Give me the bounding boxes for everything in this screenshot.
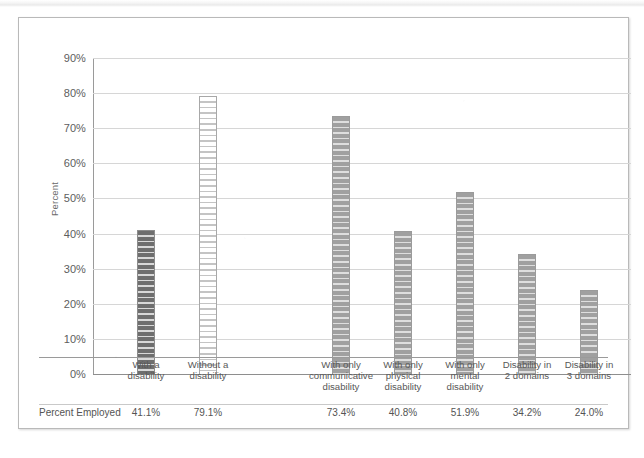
bar-6 [518,254,536,374]
plot-area: 0%10%20%30%40%50%60%70%80%90% [93,58,633,374]
chart-figure-frame: Percent 0%10%20%30%40%50%60%70%80%90% Wi… [18,17,629,429]
y-axis-tick-label: 80% [64,87,86,99]
gridline [93,58,631,59]
gridline [93,163,631,164]
category-label-line: disability [169,370,247,381]
category-label-line: disability [426,381,504,392]
y-axis-tick-label: 60% [64,157,86,169]
gridline [93,198,631,199]
y-axis-tick-label: 90% [64,52,86,64]
bar-5 [456,192,474,374]
category-label-7: Disability in3 domains [550,359,628,381]
gridline [93,128,631,129]
data-table: With adisabilityWithout adisabilityWith … [39,357,608,423]
gridline [93,234,631,235]
table-row: Percent Employed41.1%79.1%73.4%40.8%51.9… [39,407,608,423]
y-axis-tick-label: 10% [64,333,86,345]
gridline [93,339,631,340]
category-label-2: Without adisability [169,359,247,381]
value-cell-7: 24.0% [550,407,628,418]
y-axis-tick-label: 20% [64,298,86,310]
bar-3 [332,116,350,374]
bar-1 [137,230,155,374]
category-label-line: 3 domains [550,370,628,381]
bar-2 [199,96,217,374]
value-cell-2: 79.1% [169,407,247,418]
plot-inner: 0%10%20%30%40%50%60%70%80%90% [93,58,633,374]
table-row-category-labels: With adisabilityWithout adisabilityWith … [39,359,608,404]
y-axis-tick-label: 30% [64,263,86,275]
gridline [93,304,631,305]
category-label-line: Without a [169,359,247,370]
y-axis-tick-label: 70% [64,122,86,134]
y-axis-tick-label: 50% [64,192,86,204]
table-top-rule [39,357,608,358]
gridline [93,269,631,270]
y-axis-title: Percent [49,182,60,216]
y-axis-line [93,58,94,375]
gridline [93,93,631,94]
scan-artifact-band [0,0,644,7]
bar-4 [394,231,412,374]
y-axis-tick-label: 40% [64,228,86,240]
table-mid-rule [39,404,608,405]
category-label-line: Disability in [550,359,628,370]
